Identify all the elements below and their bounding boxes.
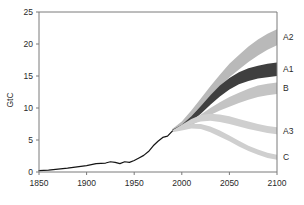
historical-line-group: [39, 131, 172, 171]
y-tick-label: 10: [24, 103, 34, 113]
historical-emissions-line: [39, 131, 172, 171]
band-label-a3: A3: [283, 126, 294, 136]
emissions-scenario-chart: 0510152025185019001950200020502100 A2A1B…: [0, 0, 304, 205]
y-tick-label: 25: [24, 7, 34, 17]
band-label-a1: A1: [283, 64, 294, 74]
y-tick-label: 15: [24, 71, 34, 81]
x-tick-label: 2050: [220, 178, 239, 188]
band-label-a2: A2: [283, 32, 294, 42]
band-label-b: B: [283, 83, 289, 93]
chart-canvas: 0510152025185019001950200020502100 A2A1B…: [0, 0, 304, 205]
y-tick-label: 0: [28, 167, 33, 177]
band-a2: [172, 29, 277, 130]
band-label-c: C: [283, 152, 289, 162]
x-tick-label: 1900: [77, 178, 96, 188]
y-axis-title: GtC: [5, 92, 15, 107]
y-axis-title-group: GtC: [5, 92, 15, 107]
y-tick-label: 5: [28, 135, 33, 145]
x-tick-label: 1850: [30, 178, 49, 188]
band-areas: [172, 29, 277, 160]
x-tick-label: 2000: [172, 178, 191, 188]
x-tick-label: 2100: [268, 178, 287, 188]
y-tick-label: 20: [24, 39, 34, 49]
x-tick-label: 1950: [125, 178, 144, 188]
band-labels-group: A2A1BA3C: [283, 32, 294, 162]
